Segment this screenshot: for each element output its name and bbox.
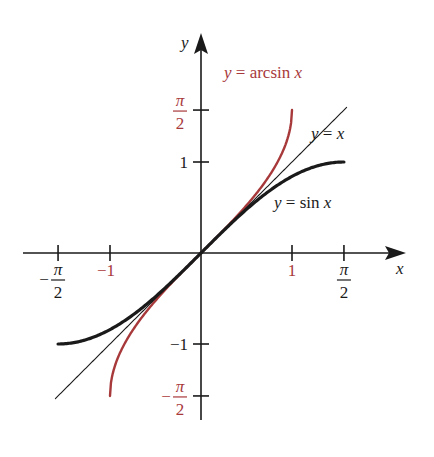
y-tick-label-den: 2 xyxy=(176,114,185,133)
annotation-x: x xyxy=(293,63,302,82)
y-tick-label-num: π xyxy=(176,377,185,396)
x-tick-label-den: 2 xyxy=(54,283,63,302)
curve-annotation-2: y = sin x xyxy=(272,193,332,212)
x-tick-label: −1 xyxy=(97,261,115,280)
x-tick-label-num: π xyxy=(340,260,349,279)
annotation-fn: sin xyxy=(300,193,324,212)
y-tick-label-num: π xyxy=(176,91,185,110)
y-tick-label-den: 2 xyxy=(176,400,185,419)
x-tick-label: π2− xyxy=(39,260,65,302)
annotation-eq: = xyxy=(232,63,250,82)
y-tick-label: 1 xyxy=(180,153,189,172)
chart: xyπ2−−11π2π21−1π2−y = arcsin xy = xy = s… xyxy=(0,0,434,457)
x-tick-label-den: 2 xyxy=(340,283,349,302)
annotation-x: x xyxy=(336,124,345,143)
labels: xyπ2−−11π2π21−1π2−y = arcsin xy = xy = s… xyxy=(39,33,404,419)
annotation-y: y xyxy=(309,124,319,143)
y-tick-label: π2− xyxy=(161,377,187,419)
x-tick-label-num: π xyxy=(54,260,63,279)
annotation-x: x xyxy=(323,193,332,212)
x-tick-label: π2 xyxy=(337,260,351,302)
x-tick-label-sign: − xyxy=(39,270,49,289)
curve-annotation-0: y = arcsin x xyxy=(222,63,302,82)
x-axis-label: x xyxy=(395,259,404,278)
y-axis-label: y xyxy=(179,33,189,52)
axes xyxy=(23,33,406,420)
annotation-fn: arcsin xyxy=(250,63,295,82)
y-tick-label: π2 xyxy=(173,91,187,133)
y-tick-label: −1 xyxy=(170,335,188,354)
annotation-eq: = xyxy=(319,124,337,143)
annotation-eq: = xyxy=(282,193,300,212)
y-tick-label-sign: − xyxy=(161,387,171,406)
x-tick-label: 1 xyxy=(288,261,297,280)
annotation-y: y xyxy=(222,63,232,82)
curve-annotation-1: y = x xyxy=(309,124,345,143)
annotation-y: y xyxy=(272,193,282,212)
